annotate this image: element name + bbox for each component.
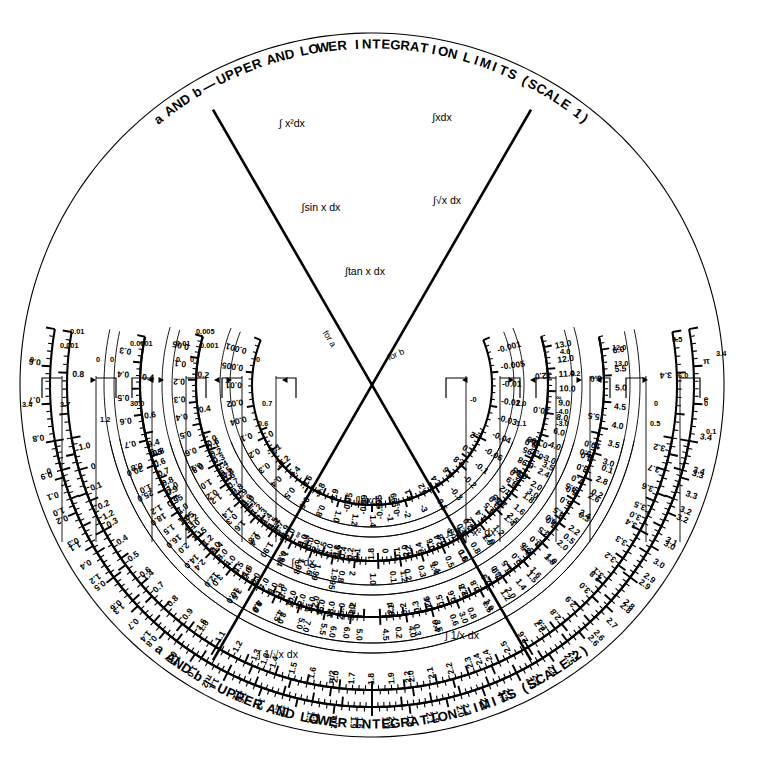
ring-int-sin-x-dx-tick	[192, 424, 200, 426]
scale2-inner-row-tick	[133, 571, 137, 574]
scale2-inner-row-tick	[210, 640, 212, 644]
scale2-outer-row-tick	[177, 634, 182, 641]
integral-label-lower-3: ∫ 1/x dx	[444, 629, 480, 642]
scale1-inner-row-tick	[675, 348, 680, 349]
scale2-inner-row-tick	[664, 436, 673, 438]
scale1-inner-row-tick	[492, 666, 496, 674]
scale1-outer-row-tick	[190, 654, 195, 662]
end-value-right-11: 1.1	[516, 419, 526, 428]
scale2-outer-row-tick	[512, 665, 516, 673]
scale2-inner-row-tick	[537, 636, 540, 640]
ring-int-tan-x-dx-label: -0.06	[483, 445, 505, 464]
scale2-outer-row-tick	[605, 594, 612, 600]
ring-int-sin-x-dx-tick	[208, 465, 215, 469]
integral-label-upper-1: ∫xdx	[431, 111, 452, 124]
scale2-outer-row-tick	[121, 584, 125, 587]
scale2-outer-row-tick	[182, 641, 185, 645]
scale2-outer-row-tick	[186, 644, 189, 648]
scale2-outer-row-tick	[342, 697, 343, 706]
scale2-inner-row-tick	[184, 621, 187, 625]
ring-int-tan-x-dx-tick	[251, 358, 255, 359]
ring-int-sin-x-dx-tick	[220, 484, 227, 489]
scale1-outer-row-tick	[259, 688, 262, 696]
ring-int-ln-x-dx-label: -0.95	[341, 492, 355, 513]
scale2-outer-row-tick	[260, 683, 262, 687]
scale1-outer-row-tick	[107, 577, 114, 582]
scale2-outer-row-tick	[83, 522, 91, 526]
scale2-inner-row-label: 1.9	[386, 672, 397, 685]
scale2-inner-row-tick	[623, 550, 627, 553]
scale2-outer-row-tick	[458, 686, 460, 695]
ring-int-x2-dx-label: 0.6	[119, 416, 132, 428]
ring-int-tan-x-dx-tick	[491, 372, 498, 373]
integral-label-upper-4: ∫tan x dx	[344, 265, 386, 278]
wrap-bracket-left-1	[96, 378, 116, 398]
ring-int-ln-x-dx-tick	[354, 500, 355, 504]
end-value-right-14: 0.5	[650, 419, 660, 428]
scale2-outer-row-tick	[336, 700, 337, 705]
scale2-inner-row-label: 3.7	[646, 462, 660, 475]
scale2-inner-row-tick	[654, 487, 658, 489]
end-value-left-2: 0	[110, 355, 114, 364]
scale1-inner-row-tick	[672, 330, 681, 332]
ring-int-tan-x-dx-tick	[490, 406, 497, 407]
scale1-inner-row-tick	[528, 647, 533, 655]
scale2-inner-row-tick	[586, 595, 589, 598]
ring-int-x-dx-label: 2.8	[595, 473, 610, 487]
svg-text:L: L	[461, 49, 474, 66]
ring-lower2-outer-labels-label: 10.0	[224, 586, 242, 606]
svg-text:I: I	[355, 37, 360, 52]
scale2-outer-row-tick	[201, 650, 206, 658]
scale2-inner-row-tick	[90, 497, 98, 500]
scale1-outer-row-tick	[693, 366, 702, 367]
scale1-outer-row-tick	[691, 426, 696, 427]
scale2-outer-row-tick	[633, 565, 637, 568]
scale2-outer-row-tick	[97, 548, 105, 553]
ring-int-x2-dx-tick	[171, 512, 178, 516]
end-value-left-0: 0	[30, 355, 34, 364]
ring-int-sin-x-dx-tick	[234, 501, 240, 506]
scale1-inner-row-tick	[675, 422, 680, 423]
end-value-right-3: 4.2	[570, 369, 580, 378]
end-value-right-8: ∞	[556, 393, 561, 402]
scale2-outer-row-tick	[330, 700, 331, 705]
ring-int-x-dx-tick	[523, 561, 528, 567]
scale2-outer-row-tick	[600, 606, 603, 609]
ring-int-x-dx-label: 3.5	[607, 438, 621, 451]
scale1-outer-row-tick	[549, 654, 554, 662]
scale2-inner-row-tick	[125, 561, 129, 564]
scale2-outer-row-tick	[312, 693, 314, 702]
scale2-inner-row-tick	[495, 654, 499, 662]
ring-int-tan-x-dx-axis	[252, 340, 492, 505]
scale1-outer-row-tick	[131, 606, 138, 612]
scale2-outer-row-tick	[630, 570, 634, 573]
scale2-inner-row-label: 0.9	[180, 606, 195, 622]
ring-int-x-dx-label: 4.0	[611, 420, 625, 432]
ring-int-tan-x-dx-tick	[489, 358, 493, 359]
scale2-inner-row-tick	[568, 613, 571, 617]
scale2-inner-row-tick	[137, 576, 141, 579]
ring-int-x2-dx-tick	[158, 489, 165, 493]
scale2-inner-row-tick	[572, 609, 575, 612]
ring-int-x-dx-label: 5.0	[615, 382, 627, 392]
scale2-outer-row-tick	[596, 610, 599, 613]
scale2-outer-row-tick	[569, 634, 572, 638]
scale2-outer-row-tick	[619, 584, 623, 587]
scale1-inner-row-tick	[289, 679, 291, 688]
ring-int-tan-x-dx-label: 0.8	[314, 503, 328, 518]
ring-int-x2-dx-label: 0.7	[123, 438, 137, 451]
ring-int-tan-x-dx-label: 0.04	[229, 414, 248, 428]
ring-int-x2-dx-tick	[248, 584, 252, 591]
scale2-inner-row-label: 3.2	[602, 550, 618, 565]
ring-int-x2-dx-label: 0.4	[117, 369, 130, 380]
end-value-left-17: 0.6	[258, 419, 268, 428]
scale2-outer-row-tick	[486, 677, 489, 685]
scale2-outer-row-tick	[525, 663, 527, 667]
scale1-outer-row-tick	[68, 513, 76, 517]
ring-int-tan-x-dx-label: -2	[402, 509, 414, 519]
ring-int-inv-sqrt-x-dx-label: 30.0	[345, 603, 356, 621]
svg-text:R: R	[337, 37, 349, 53]
scale2-outer-row-tick	[680, 439, 689, 441]
scale2-outer-row-tick	[91, 540, 95, 542]
ring-int-x2-dx-label: 6.0	[341, 626, 352, 639]
